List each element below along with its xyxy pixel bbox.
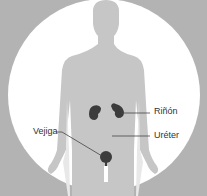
kidney-label: Riñón [154,107,178,116]
bladder-icon [100,151,112,163]
urethra [104,166,108,182]
ureter-label: Uréter [154,131,179,140]
diagram-graphic [0,0,207,196]
bladder-neck [105,162,107,166]
bladder-label: Vejiga [33,127,58,136]
urinary-system-diagram: Riñón Uréter Vejiga [0,0,207,196]
